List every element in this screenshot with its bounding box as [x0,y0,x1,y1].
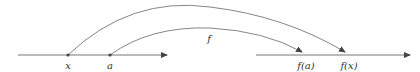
mapping-arc-x-to-fx [68,5,345,55]
codomain-point-label-fa: f(a) [297,60,314,72]
mapping-arc-a-to-fa [110,28,302,55]
domain-point-label-x: x [65,60,71,72]
function-label: f [207,33,211,45]
point-a-dot [108,53,111,56]
codomain-point-label-fx: f(x) [340,60,357,72]
domain-point-label-a: a [107,60,113,72]
point-x-dot [66,53,69,56]
